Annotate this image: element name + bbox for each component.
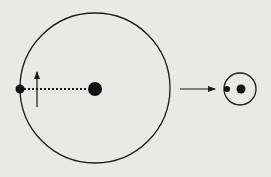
right-system — [224, 73, 256, 105]
orbiting-body-dot — [16, 85, 25, 94]
left-system — [16, 13, 171, 163]
central-body-dot — [88, 82, 102, 96]
small-central-body-dot — [237, 85, 246, 94]
orbit-diagram — [0, 0, 271, 177]
small-orbiting-body-dot — [224, 86, 230, 92]
diagram-canvas — [0, 0, 271, 177]
